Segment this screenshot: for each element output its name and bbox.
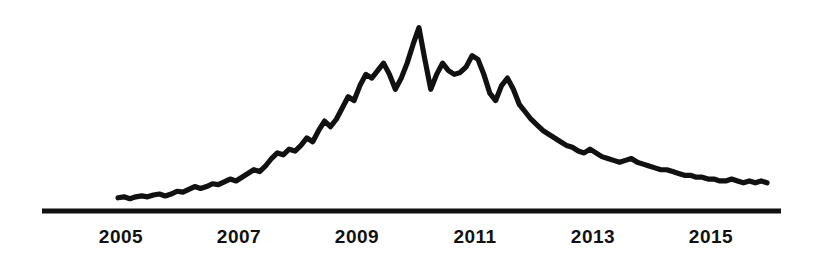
line-chart: 200520072009201120132015 — [0, 0, 818, 277]
x-tick-label-2009: 2009 — [335, 226, 379, 247]
x-tick-label-2015: 2015 — [689, 226, 733, 247]
chart-figure: 200520072009201120132015 — [0, 0, 818, 277]
x-axis-tick-labels: 200520072009201120132015 — [99, 226, 733, 247]
x-tick-label-2007: 2007 — [217, 226, 261, 247]
x-tick-label-2011: 2011 — [453, 226, 496, 247]
series-line-value — [118, 28, 767, 199]
x-tick-label-2005: 2005 — [99, 226, 143, 247]
x-tick-label-2013: 2013 — [571, 226, 615, 247]
